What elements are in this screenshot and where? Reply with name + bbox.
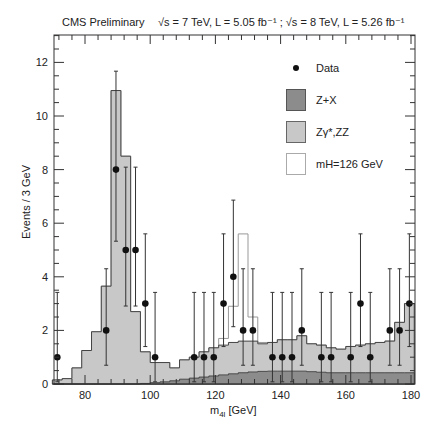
- data-point: [396, 327, 403, 334]
- data-point: [210, 354, 217, 361]
- legend: Data Z+X Zγ*,ZZ mH=126 GeV: [286, 52, 383, 180]
- legend-item-data: Data: [286, 52, 383, 84]
- zx-swatch-icon: [286, 89, 306, 111]
- data-point: [152, 354, 159, 361]
- x-axis-label-unit: [GeV]: [225, 404, 256, 416]
- y-tick-label: 4: [42, 271, 48, 283]
- data-point: [347, 354, 354, 361]
- energy-lumi-label: √s = 7 TeV, L = 5.05 fb⁻¹ ; √s = 8 TeV, …: [158, 16, 404, 29]
- x-tick-label: 160: [337, 389, 355, 401]
- data-point: [113, 166, 120, 173]
- data-point: [132, 247, 139, 254]
- legend-item-higgs: mH=126 GeV: [286, 148, 383, 180]
- y-axis-label: Events / 3 GeV: [20, 162, 32, 242]
- legend-item-zx: Z+X: [286, 84, 383, 116]
- data-point: [328, 354, 335, 361]
- legend-label: mH=126 GeV: [316, 158, 383, 170]
- x-tick-label: 120: [206, 389, 224, 401]
- x-axis-label-main: m: [210, 404, 219, 416]
- legend-item-zz: Zγ*,ZZ: [286, 116, 383, 148]
- data-point: [201, 354, 208, 361]
- data-point: [250, 327, 257, 334]
- data-point: [142, 300, 149, 307]
- data-point: [387, 327, 394, 334]
- legend-label: Zγ*,ZZ: [316, 126, 349, 138]
- y-tick-label: 10: [36, 110, 48, 122]
- experiment-label: CMS Preliminary: [62, 16, 145, 28]
- x-tick-label: 100: [141, 389, 159, 401]
- data-point: [367, 354, 374, 361]
- x-axis-label: m4l [GeV]: [210, 404, 257, 419]
- data-point: [230, 274, 237, 281]
- data-point: [240, 327, 247, 334]
- data-point: [318, 354, 325, 361]
- data-point: [220, 300, 227, 307]
- y-tick-label: 8: [42, 164, 48, 176]
- data-point: [103, 327, 110, 334]
- y-tick-label: 0: [42, 378, 48, 390]
- data-point: [298, 327, 305, 334]
- zz-swatch-icon: [286, 121, 306, 143]
- legend-label: Data: [316, 62, 339, 74]
- x-tick-label: 80: [79, 389, 91, 401]
- data-marker-icon: [286, 57, 306, 79]
- data-point: [122, 247, 129, 254]
- data-point: [357, 300, 364, 307]
- data-point: [289, 354, 296, 361]
- x-tick-label: 180: [402, 389, 420, 401]
- legend-label: Z+X: [316, 94, 336, 106]
- higgs-swatch-icon: [286, 153, 306, 175]
- x-tick-label: 140: [271, 389, 289, 401]
- y-tick-label: 6: [42, 217, 48, 229]
- data-point: [269, 354, 276, 361]
- data-point: [279, 354, 286, 361]
- y-tick-label: 12: [36, 56, 48, 68]
- y-tick-label: 2: [42, 324, 48, 336]
- data-point: [191, 354, 198, 361]
